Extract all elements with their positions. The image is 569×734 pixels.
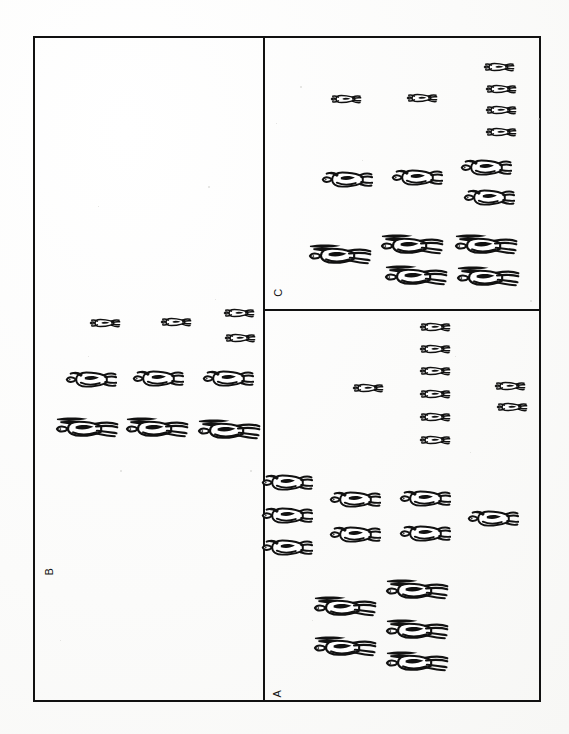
panel-label-c: C: [273, 288, 284, 296]
figure-outer-frame: [33, 36, 541, 702]
horizontal-divider: [263, 309, 541, 311]
vertical-divider: [263, 36, 265, 702]
panel-label-a: A: [272, 690, 283, 698]
figure-root: BCA: [0, 0, 569, 734]
panel-label-b: B: [44, 568, 55, 576]
